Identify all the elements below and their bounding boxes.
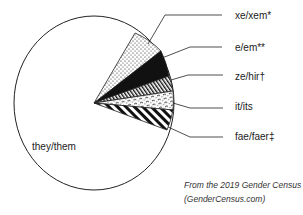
leader-line-e [162, 47, 222, 58]
source-caption-line1: From the 2019 Gender Census [184, 180, 301, 191]
source-caption-line2: (GenderCensus.com) [184, 194, 265, 205]
leader-line-xe [148, 15, 222, 44]
label-it-its: it/its [235, 101, 253, 113]
label-xe-xem: xe/xem* [235, 10, 271, 22]
leader-line-ze [171, 75, 223, 80]
label-ze-hir: ze/hir† [235, 71, 265, 83]
label-they-them: they/them [32, 141, 76, 152]
leader-line-it [173, 103, 223, 108]
leader-line-fae [168, 127, 223, 137]
label-e-em: e/em** [235, 42, 265, 54]
label-fae-faer: fae/faer‡ [235, 131, 274, 143]
